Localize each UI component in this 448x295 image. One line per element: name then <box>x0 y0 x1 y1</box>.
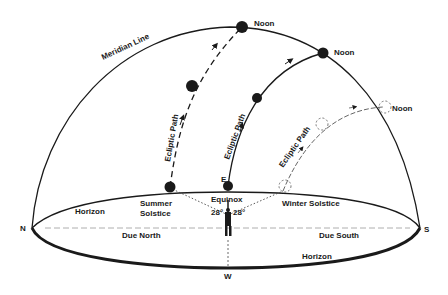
sun-winter-rise-icon <box>279 180 291 192</box>
summer-solstice-label-2: Solstice <box>140 209 171 218</box>
summer-solstice-label-1: Summer <box>140 199 172 208</box>
due-north-label: Due North <box>122 231 161 240</box>
noon-summer-label: Noon <box>254 19 275 28</box>
ecliptic-winter-label: Ecliptic Path <box>277 125 312 170</box>
observer-figure-icon <box>225 208 232 236</box>
winter-solstice-label: Winter Solstice <box>282 199 340 208</box>
equinox-label: Equinox <box>211 195 243 204</box>
sun-summer-rise-icon <box>165 182 176 193</box>
ecliptic-equinox-label: Ecliptic Path <box>222 112 247 160</box>
angle-right-label: 28° <box>233 208 245 217</box>
summer-arrow-icon-2 <box>212 45 216 50</box>
equinox-arrow-icon-2 <box>285 60 291 64</box>
horizon-front-label: Horizon <box>302 252 332 261</box>
sun-equinox-mid-icon <box>252 93 262 103</box>
sun-summer-mid-icon <box>186 80 198 92</box>
north-label: N <box>20 224 26 233</box>
meridian-line-label: Meridian Line <box>100 32 151 62</box>
sun-path-diagram: Meridian Line Noon Noon Noon Ecliptic Pa… <box>0 0 448 295</box>
sun-equinox-noon-icon <box>318 48 329 59</box>
angle-left-label: 28° <box>211 208 223 217</box>
winter-arrow-icon-2 <box>349 107 355 108</box>
sun-summer-noon-icon <box>236 21 248 33</box>
south-label: S <box>424 225 430 234</box>
horizon-back-label: Horizon <box>75 207 105 216</box>
due-south-label: Due South <box>319 231 359 240</box>
summer-ecliptic-path <box>170 27 242 187</box>
west-label: W <box>224 272 232 281</box>
sun-winter-mid-icon <box>316 118 328 130</box>
east-label: E <box>221 175 227 184</box>
noon-equinox-label: Noon <box>334 48 355 57</box>
noon-winter-label: Noon <box>392 104 413 113</box>
ecliptic-summer-label: Ecliptic Path <box>163 113 180 162</box>
